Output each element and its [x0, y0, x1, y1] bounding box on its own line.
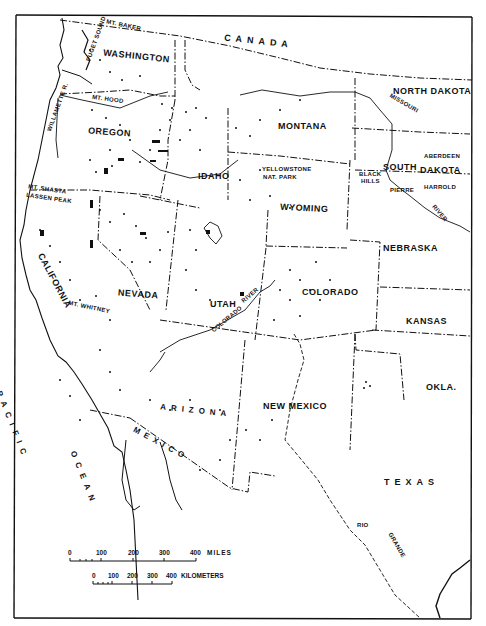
state-label-texas: TEXAS [384, 478, 439, 487]
gulf-coast [436, 560, 470, 618]
state-label-kansas: KANSAS [406, 317, 447, 326]
scale-km-200: 200 [127, 572, 138, 579]
state-label-dakota: DAKOTA [420, 166, 461, 175]
river-label-rio: RIO [357, 522, 369, 528]
pacific-coastline [20, 18, 138, 600]
state-label-south: SOUTH [383, 163, 417, 172]
state-label-new-mexico: NEW MEXICO [263, 402, 327, 411]
scale-miles-300: 300 [159, 549, 170, 556]
scale-km-300: 300 [147, 572, 158, 579]
scale-km-0: 0 [92, 572, 96, 579]
feature-label-hills: HILLS [361, 178, 380, 184]
scale-km-100: 100 [108, 572, 119, 579]
state-label-north-dakota: NORTH DAKOTA [393, 87, 471, 96]
state-label-idaho: IDAHO [198, 172, 230, 181]
city-label-aberdeen: ABERDEEN [424, 153, 460, 159]
scale-miles-0: 0 [68, 549, 72, 556]
scale-km-400: 400 [166, 572, 177, 579]
city-label-harrold: HARROLD [424, 184, 456, 190]
scale-miles-400: 400 [190, 549, 201, 556]
state-label-colorado: COLORADO [302, 288, 359, 297]
scale-km-unit: KILOMETERS [181, 572, 224, 579]
scale-miles-unit: MILES [207, 549, 232, 556]
state-label-nebraska: NEBRASKA [383, 244, 438, 253]
feature-label-black: BLACK [359, 171, 382, 177]
feature-label-yellowstone: YELLOWSTONE [262, 166, 312, 172]
scale-miles-200: 200 [128, 549, 139, 556]
feature-label-nat-park: NAT. PARK [263, 174, 297, 180]
state-borders [30, 40, 470, 492]
scale-bars [70, 558, 196, 584]
scale-miles-100: 100 [96, 549, 107, 556]
state-label-oklahoma: OKLA. [426, 383, 457, 392]
state-label-montana: MONTANA [278, 122, 327, 131]
city-label-pierre: PIERRE [390, 187, 414, 193]
state-label-utah: UTAH [210, 300, 236, 309]
